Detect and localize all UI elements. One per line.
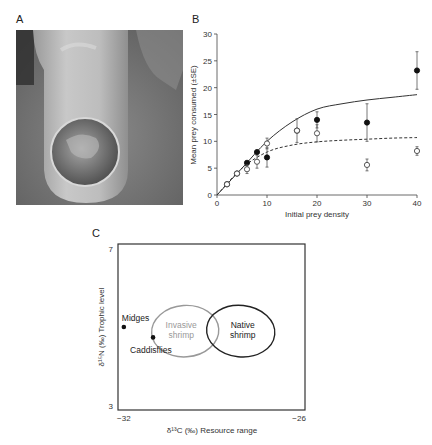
chart-c: −32−2637 InvasiveshrimpNativeshrimp Midg…: [0, 0, 432, 445]
chart-c-y-axis-label: δ¹⁵N (‰) Trophic level: [97, 287, 106, 366]
invasive-shrimp-label: Invasive: [166, 320, 197, 330]
x-tick-label: −32: [117, 414, 131, 423]
native-shrimp-label: shrimp: [230, 330, 256, 340]
midges-label: Midges: [122, 313, 149, 323]
caddisflies-point: [151, 335, 156, 340]
chart-c-prey-points: MidgesCaddisflies: [122, 313, 172, 355]
native-shrimp-label: Native: [231, 320, 255, 330]
y-tick-label: 3: [109, 402, 114, 411]
caddisflies-label: Caddisflies: [130, 345, 172, 355]
chart-c-frame: [118, 244, 305, 410]
x-tick-label: −26: [292, 414, 306, 423]
y-tick-label: 7: [109, 245, 114, 254]
midges-point: [122, 325, 127, 330]
invasive-shrimp-label: shrimp: [168, 330, 194, 340]
chart-c-x-axis-label: δ¹³C (‰) Resource range: [167, 426, 258, 435]
